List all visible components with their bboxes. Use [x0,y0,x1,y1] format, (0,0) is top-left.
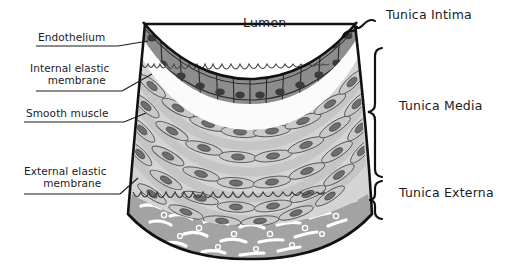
label-tunica-media-text: Tunica Media [399,98,483,113]
label-smooth-muscle: Smooth muscle [26,107,109,119]
label-lumen-text: Lumen [243,15,286,30]
label-external-elastic-membrane: External elastic membrane [24,165,107,189]
label-lumen: Lumen [243,16,286,30]
label-smooth-muscle-text: Smooth muscle [26,107,109,119]
label-internal-elastic-membrane-line2: membrane [30,74,110,86]
label-tunica-intima: Tunica Intima [386,8,472,22]
label-tunica-externa: Tunica Externa [399,186,494,200]
label-internal-elastic-membrane-line1: Internal elastic [30,62,110,74]
label-internal-elastic-membrane: Internal elastic membrane [30,62,110,86]
label-tunica-intima-text: Tunica Intima [386,7,472,22]
brace-tunica-media [368,48,382,177]
label-external-elastic-membrane-line1: External elastic [24,165,107,177]
label-tunica-media: Tunica Media [399,99,483,113]
label-endothelium: Endothelium [38,31,105,43]
label-external-elastic-membrane-line2: membrane [24,177,107,189]
label-endothelium-text: Endothelium [38,31,105,43]
label-tunica-externa-text: Tunica Externa [399,185,494,200]
